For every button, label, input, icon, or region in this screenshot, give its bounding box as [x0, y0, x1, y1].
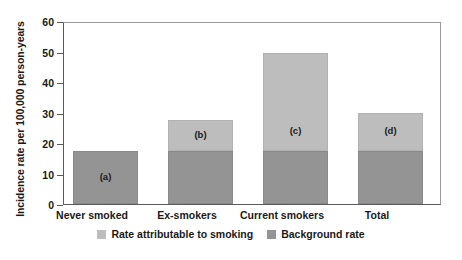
bar-segment-background-rate	[168, 151, 233, 204]
legend-item-attributable-rate[interactable]: Rate attributable to smoking	[97, 228, 253, 240]
legend-item-background-rate[interactable]: Background rate	[267, 228, 364, 240]
bar-segment-background-rate	[263, 151, 328, 204]
bar-annotation-d: (d)	[358, 125, 423, 136]
bar-never-smoked[interactable]: (a)	[73, 151, 138, 204]
bar-segment-background-rate	[358, 151, 423, 204]
bar-annotation-a: (a)	[73, 171, 138, 182]
y-tick-label-30: 30	[24, 108, 54, 120]
plot-area: (a) (b) (c) (d)	[63, 22, 441, 205]
legend-swatch-dark-icon	[267, 230, 276, 239]
x-tick-label-total: Total	[317, 209, 437, 221]
chart-figure: Incidence rate per 100,000 person-years …	[0, 0, 462, 260]
bar-total[interactable]: (d)	[358, 113, 423, 205]
legend-swatch-light-icon	[97, 230, 106, 239]
bar-current-smokers[interactable]: (c)	[263, 53, 328, 204]
bar-ex-smokers[interactable]: (b)	[168, 120, 233, 204]
y-tick-label-10: 10	[24, 169, 54, 181]
y-tick-mark	[57, 205, 63, 206]
y-tick-label-50: 50	[24, 47, 54, 59]
legend-label-attributable-rate: Rate attributable to smoking	[111, 228, 253, 240]
chart-legend: Rate attributable to smoking Background …	[0, 228, 462, 240]
y-tick-label-20: 20	[24, 138, 54, 150]
y-tick-label-60: 60	[24, 16, 54, 28]
bar-annotation-c: (c)	[263, 125, 328, 136]
y-tick-label-40: 40	[24, 77, 54, 89]
bar-annotation-b: (b)	[168, 129, 233, 140]
legend-label-background-rate: Background rate	[281, 228, 364, 240]
